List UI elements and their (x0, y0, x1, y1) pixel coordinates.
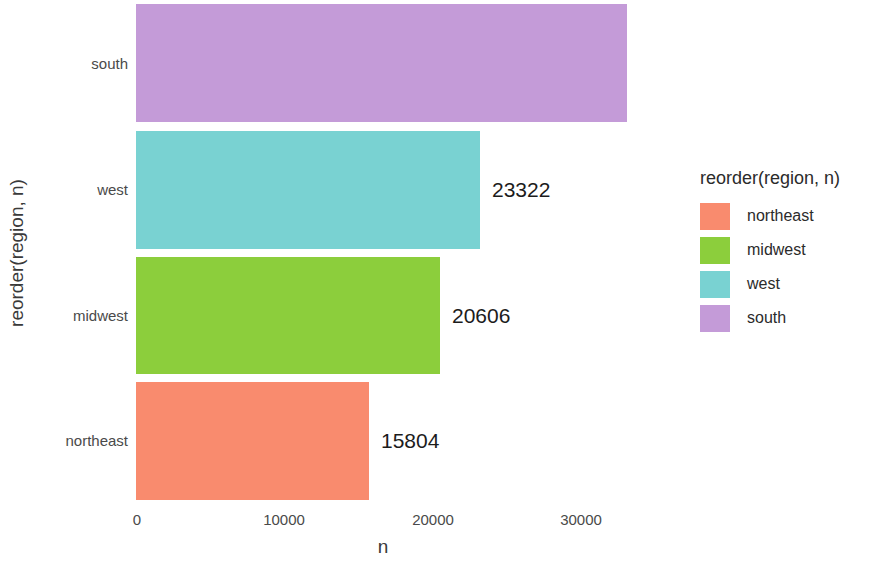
x-tick-label-20000: 20000 (412, 511, 454, 528)
bar-value-label-northeast: 15804 (381, 429, 439, 453)
y-tick-label-south: south (30, 55, 128, 72)
y-tick-label-midwest: midwest (30, 307, 128, 324)
x-tick-label-30000: 30000 (560, 511, 602, 528)
legend: reorder(region, n) northeast midwest wes… (700, 168, 875, 335)
legend-item-northeast: northeast (700, 199, 875, 233)
bar-northeast (136, 382, 369, 500)
y-axis-title-text: reorder(region, n) (6, 179, 28, 327)
x-axis-title: n (136, 536, 630, 558)
x-tick-label-10000: 10000 (263, 511, 305, 528)
bar-south (136, 4, 627, 122)
legend-swatch-west (700, 271, 730, 298)
legend-item-west: west (700, 267, 875, 301)
legend-swatch-south (700, 305, 730, 332)
legend-title: reorder(region, n) (700, 168, 875, 189)
y-axis-title: reorder(region, n) (2, 0, 32, 505)
x-tick-label-0: 0 (133, 511, 141, 528)
y-tick-label-northeast: northeast (30, 432, 128, 449)
legend-label-northeast: northeast (747, 207, 814, 225)
legend-swatch-midwest (700, 237, 730, 264)
legend-swatch-northeast (700, 203, 730, 230)
legend-label-midwest: midwest (747, 241, 806, 259)
legend-item-midwest: midwest (700, 233, 875, 267)
legend-label-south: south (747, 309, 786, 327)
bar-midwest (136, 257, 440, 374)
legend-label-west: west (747, 275, 780, 293)
bar-value-label-west: 23322 (492, 178, 550, 202)
legend-item-south: south (700, 301, 875, 335)
y-tick-label-west: west (30, 181, 128, 198)
bar-chart-figure: reorder(region, n) south west midwest no… (0, 0, 877, 562)
bar-west (136, 131, 480, 249)
bar-value-label-midwest: 20606 (452, 304, 510, 328)
plot-panel: 333 23322 20606 15804 (136, 0, 630, 505)
